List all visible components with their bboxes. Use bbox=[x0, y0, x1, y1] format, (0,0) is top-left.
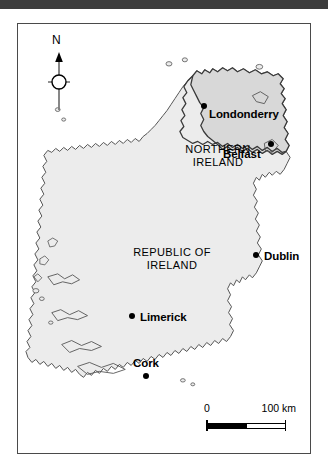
scale-bar-graphic bbox=[206, 420, 286, 431]
city-dot-londonderry[interactable] bbox=[201, 103, 207, 109]
scale-bar-hollow-half bbox=[246, 423, 286, 429]
compass-needle-icon bbox=[40, 36, 80, 114]
north-arrow-icon: N bbox=[40, 36, 80, 114]
map-frame: N NORTHERN IRELAND REPUBLIC OF IRELAND L… bbox=[17, 23, 311, 454]
scale-bar: 0 100 km bbox=[204, 402, 296, 438]
top-banner-bar bbox=[0, 0, 328, 9]
city-label-dublin: Dublin bbox=[264, 250, 299, 262]
north-label: N bbox=[52, 34, 61, 46]
city-label-belfast: Belfast bbox=[223, 148, 261, 160]
scale-bar-labels: 0 100 km bbox=[204, 402, 296, 416]
region-label-republic-of-ireland: REPUBLIC OF IRELAND bbox=[112, 246, 232, 272]
city-label-limerick: Limerick bbox=[140, 311, 187, 323]
city-dot-dublin[interactable] bbox=[253, 252, 259, 258]
scale-max-label: 100 km bbox=[262, 402, 296, 414]
city-label-cork: Cork bbox=[133, 357, 159, 369]
city-dot-cork[interactable] bbox=[143, 373, 149, 379]
scale-tick-end bbox=[285, 420, 287, 431]
city-dot-belfast[interactable] bbox=[268, 141, 274, 147]
city-dot-limerick[interactable] bbox=[129, 313, 135, 319]
scale-min-label: 0 bbox=[204, 402, 210, 414]
city-label-londonderry: Londonderry bbox=[209, 108, 279, 120]
scale-bar-filled-half bbox=[206, 423, 246, 429]
